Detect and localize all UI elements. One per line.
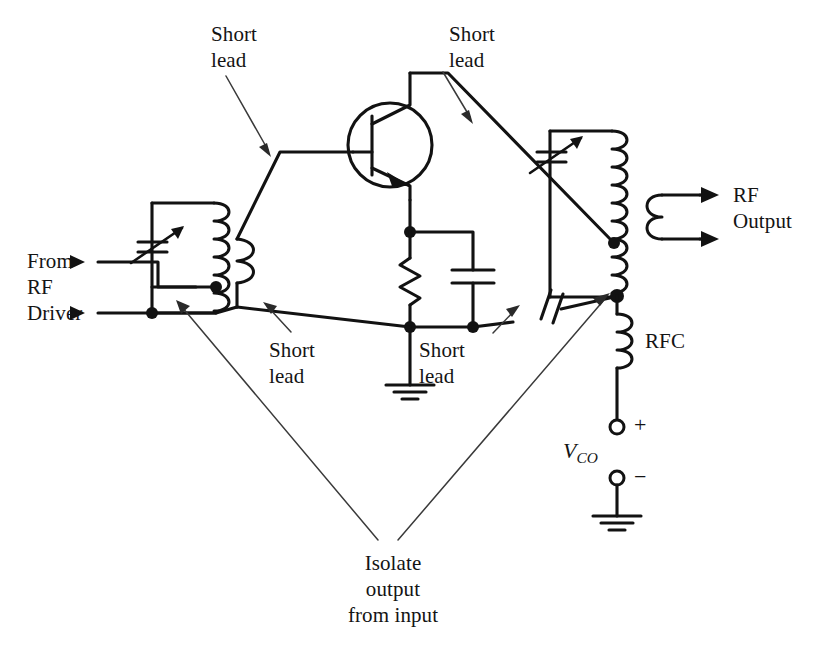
- supply-positive-terminal: [610, 420, 624, 434]
- input-variable-capacitor: [131, 226, 184, 263]
- label-supply-plus: +: [634, 412, 646, 438]
- output-tank-frame: [550, 131, 614, 297]
- supply-negative-terminal: [610, 471, 624, 485]
- label-short-lead-bottom-right: Short lead: [419, 338, 465, 389]
- input-ground-node: [146, 307, 158, 319]
- input-tank-frame: [152, 203, 216, 313]
- label-from-rf-driver-line1: From: [27, 249, 73, 275]
- collector-output-lead: [410, 73, 614, 243]
- leader-isolate-left: [176, 300, 378, 540]
- label-isolate-note-line2: output: [338, 577, 448, 603]
- leader-short-lead-bottom-right: [493, 305, 520, 333]
- leader-short-lead-top-right: [443, 72, 473, 124]
- output-tap-node: [608, 237, 620, 249]
- input-tap-node: [210, 281, 222, 293]
- label-isolate-note-line1: Isolate: [338, 551, 448, 577]
- input-return-lead: [216, 307, 410, 327]
- leader-short-lead-bottom-left: [263, 302, 291, 332]
- supply-symbol-text: V: [563, 438, 576, 463]
- base-lead-wire: [237, 152, 353, 307]
- emitter-resistor: [400, 232, 420, 327]
- label-isolate-note-line3: from input: [318, 603, 468, 629]
- label-rf-output-line2: Output: [733, 209, 792, 235]
- emitter-branch-rail: [410, 232, 473, 270]
- output-variable-capacitor: [530, 136, 583, 173]
- supply-ground: [593, 485, 641, 530]
- label-supply-voltage: VCO: [563, 438, 598, 467]
- label-short-lead-top-right: Short lead: [449, 22, 495, 73]
- label-from-rf-driver-line2: RF: [27, 275, 53, 301]
- emitter-bypass-capacitor: [452, 270, 494, 327]
- label-short-lead-top-left: Short lead: [211, 22, 257, 73]
- supply-subscript-text: CO: [576, 449, 597, 466]
- leader-short-lead-top-left: [226, 76, 271, 157]
- label-from-rf-driver-line3: Driver: [27, 301, 82, 327]
- output-tank-coil: [612, 131, 627, 293]
- emitter-arrow: [387, 172, 410, 186]
- output-secondary-coil: [647, 195, 700, 239]
- leader-isolate-right: [398, 293, 610, 540]
- input-tank-coil: [214, 203, 229, 311]
- rf-choke: [617, 296, 632, 419]
- label-rf-output-line1: RF: [733, 183, 759, 209]
- label-short-lead-bottom-left: Short lead: [269, 338, 315, 389]
- input-driver-top-lead: [98, 262, 196, 287]
- transistor-q1: [348, 73, 432, 200]
- label-rfc: RFC: [645, 329, 685, 355]
- schematic-canvas: Short lead Short lead Short lead Short l…: [0, 0, 813, 651]
- label-supply-minus: −: [634, 464, 646, 490]
